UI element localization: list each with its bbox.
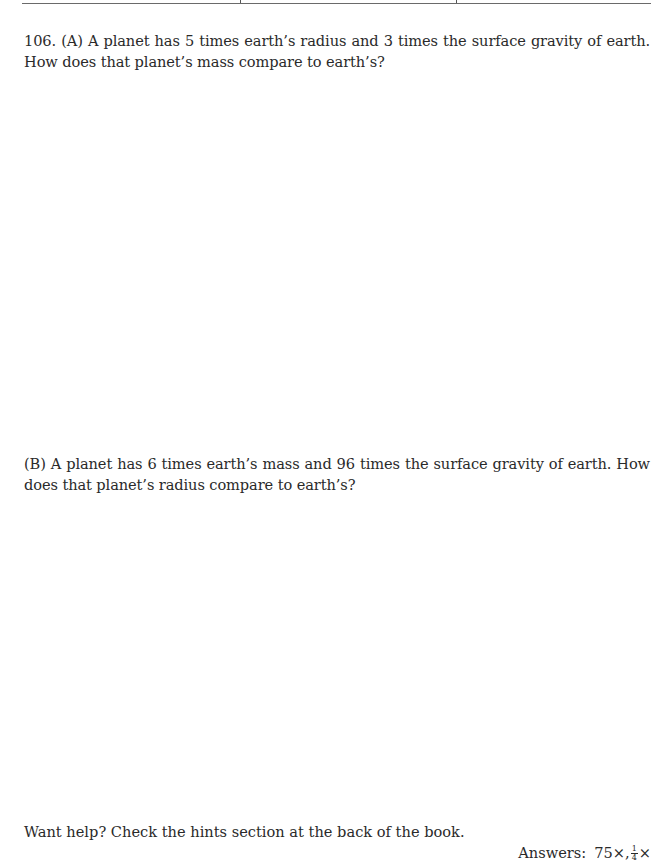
hint-text: Want help? Check the hints section at th… xyxy=(24,821,465,842)
answers-label: Answers: xyxy=(518,842,586,863)
answer-part-b-suffix: × xyxy=(639,842,651,863)
answers-line: Answers: 75×, 1 4 × xyxy=(518,842,651,863)
header-text-fragment xyxy=(240,0,241,3)
problem-106-part-a: 106. (A) A planet has 5 times earth’s ra… xyxy=(24,30,650,72)
fraction-denominator: 4 xyxy=(631,854,638,862)
answer-part-a: 75×, xyxy=(594,842,629,863)
answer-part-b-fraction: 1 4 xyxy=(631,845,638,862)
header-text-fragment xyxy=(456,0,457,3)
header-rule xyxy=(22,3,651,4)
problem-106-part-b: (B) A planet has 6 times earth’s mass an… xyxy=(24,453,650,495)
